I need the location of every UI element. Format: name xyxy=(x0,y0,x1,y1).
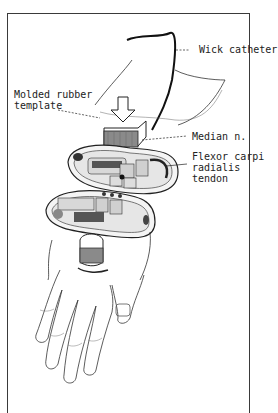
upper-wrist-cross-section-icon xyxy=(68,145,178,194)
label-median-nerve: Median n. xyxy=(192,131,246,142)
wick-catheter-icon xyxy=(127,33,175,130)
label-molded-rubber-template: Molded rubber template xyxy=(14,89,92,111)
lower-wrist-cross-section-icon xyxy=(46,191,155,238)
arrow-down-icon xyxy=(111,97,135,122)
label-wick-catheter: Wick catheter xyxy=(199,44,277,55)
label-flexor-carpi-radialis-tendon: Flexor carpi radialis tendon xyxy=(192,151,264,184)
